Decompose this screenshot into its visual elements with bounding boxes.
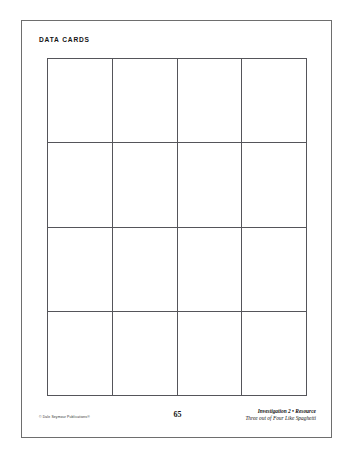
data-card-cell[interactable] — [113, 59, 178, 143]
data-card-cell[interactable] — [48, 312, 113, 396]
page-footer: © Dale Seymour Publications® 65 Investig… — [22, 407, 333, 435]
data-card-grid — [47, 58, 307, 396]
data-card-cell[interactable] — [113, 143, 178, 227]
data-card-cell[interactable] — [242, 312, 307, 396]
data-card-cell[interactable] — [178, 59, 243, 143]
data-card-cell[interactable] — [113, 228, 178, 312]
data-card-cell[interactable] — [113, 312, 178, 396]
data-card-cell[interactable] — [242, 143, 307, 227]
investigation-label: Investigation 2 • Resource — [245, 408, 316, 415]
source-reference: Investigation 2 • Resource Three out of … — [245, 408, 316, 422]
page-title: DATA CARDS — [39, 36, 90, 43]
data-card-cell[interactable] — [178, 228, 243, 312]
data-card-cell[interactable] — [48, 228, 113, 312]
data-card-cell[interactable] — [178, 312, 243, 396]
data-card-cell[interactable] — [48, 143, 113, 227]
worksheet-page: DATA CARDS © Dale Seymour Publications® … — [21, 20, 332, 438]
data-card-cell[interactable] — [48, 59, 113, 143]
data-card-cell[interactable] — [178, 143, 243, 227]
data-card-cell[interactable] — [242, 228, 307, 312]
unit-title-label: Three out of Four Like Spaghetti — [245, 415, 316, 422]
data-card-cell[interactable] — [242, 59, 307, 143]
